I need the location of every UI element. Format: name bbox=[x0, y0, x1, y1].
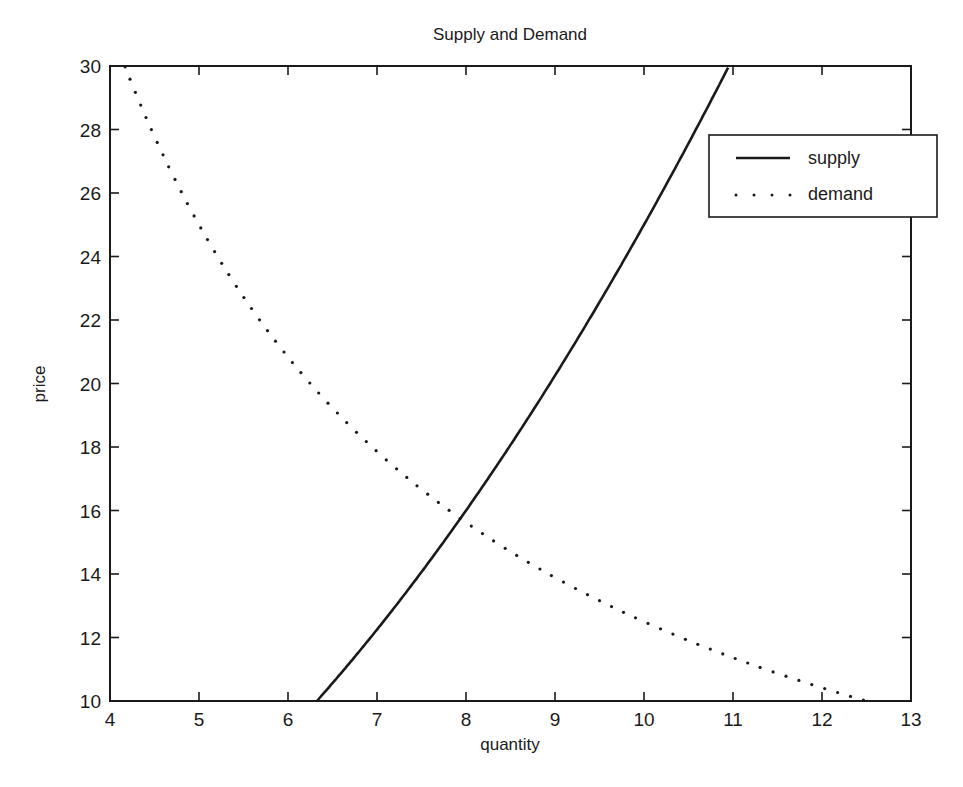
x-tick-label: 6 bbox=[283, 709, 294, 730]
x-tick-label: 13 bbox=[900, 709, 921, 730]
y-tick-label: 22 bbox=[80, 310, 101, 331]
x-tick-label: 10 bbox=[633, 709, 654, 730]
y-axis-label: price bbox=[30, 366, 49, 403]
y-tick-label: 18 bbox=[80, 437, 101, 458]
y-tick-label: 26 bbox=[80, 183, 101, 204]
y-tick-label: 10 bbox=[80, 691, 101, 712]
y-tick-label: 20 bbox=[80, 374, 101, 395]
y-tick-label: 28 bbox=[80, 120, 101, 141]
x-tick-label: 12 bbox=[811, 709, 832, 730]
y-tick-label: 14 bbox=[80, 564, 102, 585]
x-axis-label: quantity bbox=[480, 735, 540, 754]
x-tick-label: 7 bbox=[372, 709, 383, 730]
x-tick-label: 8 bbox=[461, 709, 472, 730]
legend: supply demand bbox=[709, 135, 937, 217]
y-tick-label: 16 bbox=[80, 501, 101, 522]
y-tick-label: 12 bbox=[80, 628, 101, 649]
x-tick-label: 9 bbox=[550, 709, 561, 730]
chart-title: Supply and Demand bbox=[433, 25, 587, 44]
x-tick-label: 5 bbox=[194, 709, 205, 730]
legend-supply-label: supply bbox=[808, 148, 860, 168]
y-tick-label: 30 bbox=[80, 56, 101, 77]
legend-demand-label: demand bbox=[808, 184, 873, 204]
x-tick-label: 11 bbox=[723, 709, 743, 730]
supply-curve bbox=[317, 68, 728, 701]
x-tick-label: 4 bbox=[105, 709, 116, 730]
supply-demand-chart: Supply and Demand 45678910111213 1012141… bbox=[0, 0, 963, 787]
y-tick-label: 24 bbox=[80, 247, 102, 268]
